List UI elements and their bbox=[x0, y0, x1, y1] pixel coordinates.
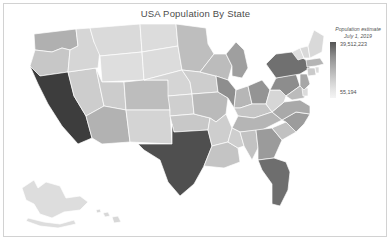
state-WY[interactable] bbox=[100, 52, 144, 82]
legend-min-label: 55,194 bbox=[340, 89, 357, 95]
state-WA[interactable] bbox=[34, 29, 78, 52]
legend-max-label: 39,512,223 bbox=[340, 41, 367, 47]
map-legend: Population estimate July 1, 2019 39,512,… bbox=[327, 26, 389, 106]
legend-gradient-bar bbox=[330, 42, 336, 98]
state-KS[interactable] bbox=[168, 94, 194, 116]
state-RI[interactable] bbox=[315, 67, 319, 73]
state-NJ[interactable] bbox=[300, 74, 310, 90]
usa-choropleth-map[interactable] bbox=[4, 20, 326, 236]
state-CT[interactable] bbox=[307, 68, 316, 76]
map-canvas[interactable] bbox=[4, 20, 326, 236]
state-FL[interactable] bbox=[258, 158, 290, 206]
legend-title: Population estimate bbox=[329, 26, 387, 33]
state-MT[interactable] bbox=[90, 24, 142, 56]
legend-subtitle: July 1, 2019 bbox=[329, 33, 387, 40]
state-AK[interactable] bbox=[22, 180, 88, 218]
visualization-root: USA Population By State bbox=[0, 0, 391, 241]
state-AK-aleutians[interactable] bbox=[26, 218, 76, 228]
state-HI-3[interactable] bbox=[112, 216, 121, 223]
state-NM[interactable] bbox=[126, 110, 172, 144]
state-HI-2[interactable] bbox=[103, 212, 110, 217]
state-HI[interactable] bbox=[96, 209, 101, 213]
state-MA[interactable] bbox=[306, 58, 324, 67]
state-ME[interactable] bbox=[308, 30, 324, 58]
state-CO[interactable] bbox=[124, 80, 170, 110]
page-title: USA Population By State bbox=[0, 8, 391, 19]
legend-body: 39,512,223 55,194 bbox=[327, 42, 389, 104]
